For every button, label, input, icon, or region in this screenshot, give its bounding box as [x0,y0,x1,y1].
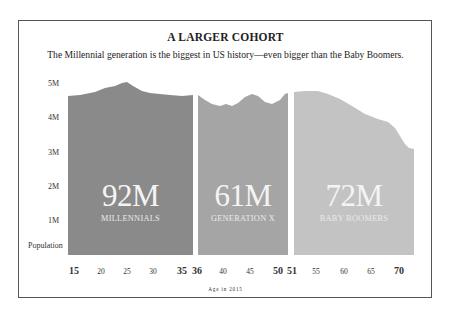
x-tick-35: 35 [177,265,187,276]
generation-x-label: GENERATION X [198,214,288,223]
baby-boomers-label: BABY BOOMERS [294,214,414,223]
x-tick-20: 20 [97,267,105,276]
x-tick-50: 50 [273,265,283,276]
millennials-label: MILLENNIALS [68,214,193,223]
x-axis-label: Age in 2015 [0,286,451,292]
area-baby-boomers [294,91,414,255]
millennials-total: 92M [68,178,193,214]
x-tick-25: 25 [123,267,131,276]
x-tick-30: 30 [149,267,157,276]
x-tick-55: 55 [312,267,320,276]
baby-boomers-total: 72M [294,178,414,214]
generation-x-total: 61M [198,178,288,214]
x-tick-15: 15 [69,265,79,276]
x-tick-70: 70 [394,265,404,276]
x-tick-60: 60 [340,267,348,276]
x-tick-65: 65 [367,267,375,276]
x-tick-51: 51 [287,265,297,276]
x-tick-40: 40 [219,267,227,276]
area-generation-x [198,93,288,255]
x-tick-36: 36 [192,265,202,276]
area-millennials [68,82,193,255]
x-tick-45: 45 [246,267,254,276]
